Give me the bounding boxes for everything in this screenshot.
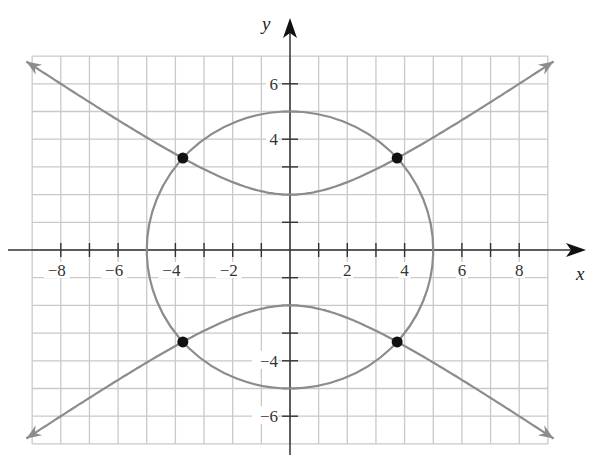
x-tick-label: 4 bbox=[400, 261, 409, 280]
y-tick-label: −6 bbox=[260, 407, 278, 426]
x-tick-label: −8 bbox=[48, 261, 66, 280]
coordinate-plane: −8−6−4−22468−6−446 x y bbox=[0, 0, 610, 463]
arrowhead-icon bbox=[538, 61, 554, 74]
x-tick-label: −6 bbox=[105, 261, 123, 280]
intersection-point bbox=[392, 153, 403, 164]
x-tick-label: −4 bbox=[162, 261, 181, 280]
intersection-point bbox=[177, 153, 188, 164]
y-axis-label: y bbox=[260, 13, 271, 34]
x-tick-label: 8 bbox=[515, 261, 524, 280]
y-tick-label: −4 bbox=[260, 352, 279, 371]
y-tick-label: 4 bbox=[270, 130, 279, 149]
arrowhead-icon bbox=[538, 425, 554, 438]
arrowhead-icon bbox=[26, 425, 42, 438]
y-tick-label: 6 bbox=[270, 75, 279, 94]
x-axis-label: x bbox=[575, 263, 585, 284]
x-tick-label: 2 bbox=[343, 261, 352, 280]
x-tick-label: 6 bbox=[458, 261, 467, 280]
intersection-point bbox=[392, 336, 403, 347]
intersection-point bbox=[177, 336, 188, 347]
x-tick-label: −2 bbox=[220, 261, 238, 280]
arrowhead-icon bbox=[26, 61, 42, 74]
